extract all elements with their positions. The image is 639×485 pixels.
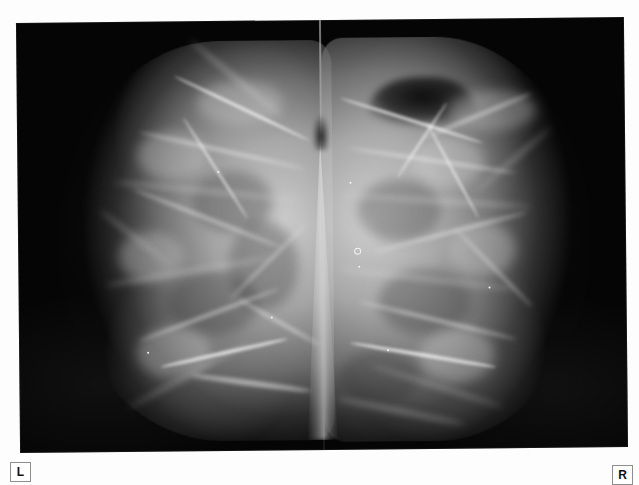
laterality-marker-left[interactable]: L [10, 462, 31, 482]
calcification-speck [217, 171, 219, 173]
calcification-speck [354, 248, 361, 255]
calcification-speck [387, 349, 389, 351]
nipple-shadow [313, 116, 329, 150]
calcification-speck [147, 352, 149, 354]
lightbox-background: L R [0, 0, 639, 485]
calcification-speck [271, 316, 273, 318]
mammogram-film[interactable] [16, 17, 628, 453]
calcification-speck [358, 266, 360, 268]
film-surface [16, 17, 628, 453]
calcification-speck [489, 286, 491, 288]
laterality-marker-right[interactable]: R [612, 465, 633, 485]
calcification-speck [349, 182, 351, 184]
